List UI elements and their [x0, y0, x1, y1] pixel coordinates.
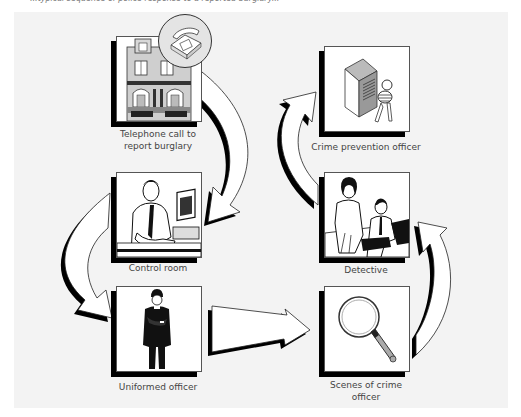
label-line-1: Telephone call to [98, 128, 218, 140]
flow-arrows [0, 0, 521, 417]
label-line-1: Detective [306, 264, 426, 276]
label-telephone-call: Telephone call to report burglary [98, 128, 218, 152]
police-constable-icon [117, 287, 201, 371]
label-crime-prevention-officer: Crime prevention officer [306, 141, 426, 153]
label-line-2: officer [306, 391, 426, 403]
node-crime-prevention-officer [324, 46, 410, 132]
label-line-1: Uniformed officer [98, 381, 218, 393]
telephone-icon-circle [158, 14, 212, 68]
label-line-1: Control room [98, 262, 218, 274]
node-scenes-of-crime-officer [324, 286, 410, 372]
telephone-icon [159, 15, 211, 67]
label-line-2: report burglary [98, 140, 218, 152]
label-detective: Detective [306, 264, 426, 276]
arrow-control-room-to-uniformed-officer [61, 193, 112, 322]
detective-interview-icon [325, 173, 409, 257]
label-line-1: Crime prevention officer [306, 141, 426, 153]
lock-box-and-keys-icon [325, 47, 409, 131]
label-scenes-of-crime-officer: Scenes of crime officer [306, 379, 426, 403]
label-line-1: Scenes of crime [306, 379, 426, 391]
label-control-room: Control room [98, 262, 218, 274]
operator-at-computer-icon [117, 173, 201, 257]
magnifying-glass-icon [325, 287, 409, 371]
node-control-room [116, 172, 202, 258]
node-uniformed-officer [116, 286, 202, 372]
label-uniformed-officer: Uniformed officer [98, 381, 218, 393]
arrow-scenes-of-crime-to-detective [412, 222, 451, 359]
node-detective [324, 172, 410, 258]
arrow-uniformed-officer-to-scenes-of-crime [208, 306, 310, 356]
